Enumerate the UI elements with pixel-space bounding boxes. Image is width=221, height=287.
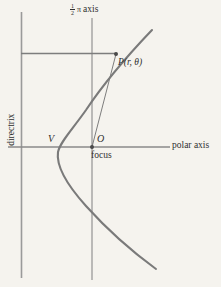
axis-word: axis: [83, 5, 98, 15]
polar-conic-diagram: 1 2 π axis directrix polar axis V O focu…: [0, 0, 221, 287]
vertex-label: V: [48, 134, 54, 144]
directrix-label: directrix: [7, 101, 17, 159]
polar-axis-label: polar axis: [172, 141, 209, 151]
point-p-label: P(r, θ): [118, 58, 142, 68]
point-marker-P: [114, 52, 118, 56]
pi-symbol: π: [77, 6, 81, 14]
point-marker-origin: [90, 145, 94, 149]
half-pi-axis-label: 1 2 π axis: [70, 3, 98, 16]
fraction-denominator: 2: [70, 10, 75, 16]
origin-label: O: [97, 134, 104, 144]
focus-label: focus: [91, 151, 112, 161]
fraction-numerator: 1: [70, 3, 75, 10]
one-half-fraction: 1 2: [70, 3, 75, 16]
